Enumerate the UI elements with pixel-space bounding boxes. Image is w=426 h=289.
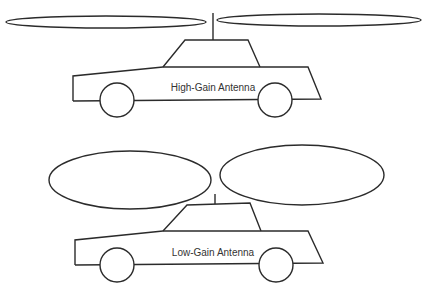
car-roof [163,40,260,67]
low-gain-panel: Low-Gain Antenna [49,145,384,282]
car-front-wheel [100,83,134,117]
low-gain-right-lobe [220,145,384,205]
car-front-wheel [100,248,134,282]
high-gain-right-lobe [217,14,421,26]
antenna-gain-diagram: High-Gain Antenna Low-Gain Antenna [0,0,426,289]
low-gain-car-icon [75,203,323,282]
low-gain-label: Low-Gain Antenna [172,247,255,258]
car-roof [163,203,261,231]
car-rear-wheel [259,248,293,282]
high-gain-left-lobe [6,16,206,28]
high-gain-panel: High-Gain Antenna [6,13,421,117]
low-gain-left-lobe [49,151,211,209]
high-gain-car-icon [73,40,321,117]
car-rear-wheel [258,83,292,117]
high-gain-label: High-Gain Antenna [171,82,256,93]
